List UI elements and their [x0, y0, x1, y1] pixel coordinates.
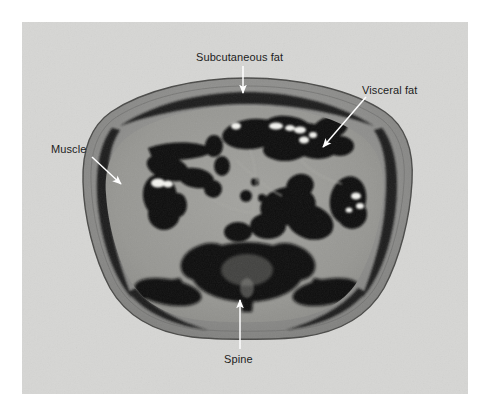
film-grain-overlay [22, 22, 468, 394]
label-subcutaneous-fat: Subcutaneous fat [196, 51, 283, 64]
label-visceral-fat: Visceral fat [362, 84, 417, 97]
label-muscle: Muscle [51, 143, 86, 156]
label-spine: Spine [224, 353, 253, 366]
figure-root: Subcutaneous fat Visceral fat Muscle Spi… [0, 0, 491, 419]
scan-content [22, 22, 468, 394]
